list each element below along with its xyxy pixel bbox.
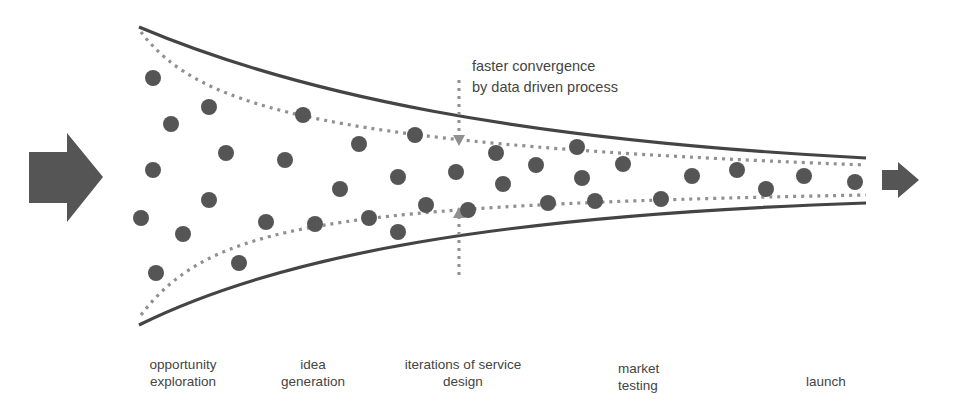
idea-dot [145, 70, 161, 86]
idea-dot [390, 169, 406, 185]
idea-dot [295, 107, 311, 123]
idea-dot [175, 226, 191, 242]
idea-dot [231, 255, 247, 271]
stage-label-iterations-of-service-design: iterations of service design [384, 356, 542, 390]
idea-dot [390, 224, 406, 240]
idea-dot [163, 116, 179, 132]
idea-dot [258, 214, 274, 230]
idea-dot [407, 127, 423, 143]
idea-dot [448, 164, 464, 180]
idea-dot [615, 156, 631, 172]
stage-label-idea-generation: idea generation [268, 356, 358, 390]
annotation-down-arrowhead-icon [453, 135, 465, 146]
idea-dot [653, 191, 669, 207]
idea-dot [218, 145, 234, 161]
stage-label-market-testing: market testing [618, 360, 664, 394]
idea-dots [133, 70, 863, 281]
annotation-line-1: faster convergence [472, 56, 618, 77]
idea-dot [201, 99, 217, 115]
idea-dot [332, 181, 348, 197]
annotation-line-2: by data driven process [472, 77, 618, 98]
idea-dot [574, 170, 590, 186]
idea-dot [148, 265, 164, 281]
idea-dot [307, 216, 323, 232]
convergence-top-dotted-line [141, 32, 866, 165]
idea-dot [684, 168, 700, 184]
idea-dot [418, 197, 434, 213]
stage-label-launch: launch [806, 373, 866, 390]
idea-dot [201, 192, 217, 208]
convergence-annotation: faster convergence by data driven proces… [472, 56, 618, 98]
idea-dot [847, 174, 863, 190]
stage-label-opportunity-exploration: opportunity exploration [140, 356, 226, 390]
idea-dot [145, 162, 161, 178]
idea-dot [540, 195, 556, 211]
idea-dot [569, 139, 585, 155]
idea-dot [758, 181, 774, 197]
output-arrow-icon [882, 162, 919, 198]
idea-dot [361, 210, 377, 226]
idea-dot [796, 168, 812, 184]
idea-dot [488, 145, 504, 161]
idea-dot [587, 193, 603, 209]
funnel-bottom-boundary [139, 203, 866, 325]
idea-dot [729, 162, 745, 178]
idea-dot [528, 157, 544, 173]
idea-dot [495, 176, 511, 192]
idea-dot [351, 136, 367, 152]
input-arrow-icon [29, 133, 103, 222]
idea-dot [133, 210, 149, 226]
idea-dot [277, 152, 293, 168]
convergence-bottom-dotted-line [141, 195, 866, 315]
idea-dot [460, 202, 476, 218]
